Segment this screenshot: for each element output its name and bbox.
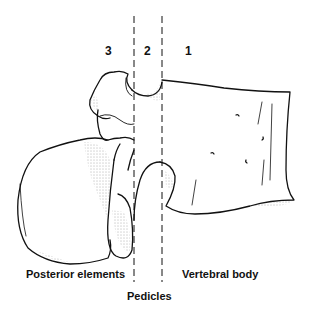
zone-3-number: 3 [105, 44, 112, 58]
vertebra-diagram: 3 2 1 Posterior elements Vertebral body … [0, 0, 312, 310]
vertebral-body-shape [160, 80, 294, 214]
zone-1-number: 1 [185, 44, 192, 58]
vertebral-body-label: Vertebral body [182, 268, 258, 280]
vertebra-illustration [0, 0, 312, 310]
posterior-elements-label: Posterior elements [26, 268, 125, 280]
zone-2-number: 2 [144, 44, 151, 58]
pedicles-label: Pedicles [127, 290, 172, 302]
